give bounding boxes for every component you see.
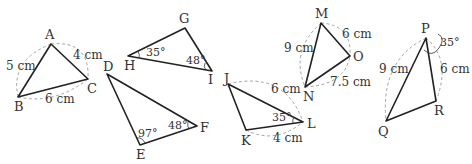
angle-e: 97° [138,127,158,140]
vertex-l: L [307,116,316,131]
angle-arc-l [293,117,294,123]
vertex-o: O [353,49,364,64]
triangle-ghi: G H I 35° 48° [124,11,213,87]
triangle-pqr-edges [386,38,436,121]
angle-arc-f [188,122,189,129]
vertex-r: R [434,103,445,118]
measure-kl: 4 cm [273,131,303,145]
measure-ab: 5 cm [6,59,36,73]
vertex-a: A [44,27,55,42]
triangles-diagram: A B C 5 cm 4 cm 6 cm G H I 35° 48° D E F… [0,0,472,164]
vertex-f: F [200,120,209,135]
vertex-q: Q [378,124,389,139]
triangle-def: D E F 97° 48° [103,59,209,162]
vertex-g: G [179,11,189,26]
angle-p: 35° [440,36,460,49]
measure-bc: 6 cm [45,92,75,106]
measure-pq: 9 cm [379,62,409,76]
vertex-c: C [87,81,97,96]
vertex-d: D [103,59,113,74]
vertex-n: N [303,89,314,104]
vertex-m: M [315,6,328,21]
angle-arc-h [138,51,139,58]
angle-f: 48° [168,119,188,132]
vertex-e: E [136,147,146,162]
triangle-pqr: P Q R 9 cm 6 cm 35° [378,21,470,139]
vertex-p: P [421,21,430,36]
measure-ac: 4 cm [73,48,103,62]
angle-l: 35° [272,111,292,124]
angle-i: 48° [186,54,206,67]
vertex-k: K [241,133,251,148]
measure-mn: 9 cm [284,41,314,55]
measure-jl: 6 cm [271,82,301,96]
angle-h: 35° [146,46,166,59]
vertex-h: H [124,58,135,73]
measure-mo: 6 cm [342,27,372,41]
vertex-i: I [208,72,213,87]
measure-pr: 6 cm [440,62,470,76]
vertex-b: B [14,99,24,114]
triangle-abc: A B C 5 cm 4 cm 6 cm [6,27,103,114]
triangle-jkl: J K L 6 cm 35° 4 cm [222,71,316,148]
measure-no: 7.5 cm [330,75,372,89]
vertex-j: J [222,71,229,86]
